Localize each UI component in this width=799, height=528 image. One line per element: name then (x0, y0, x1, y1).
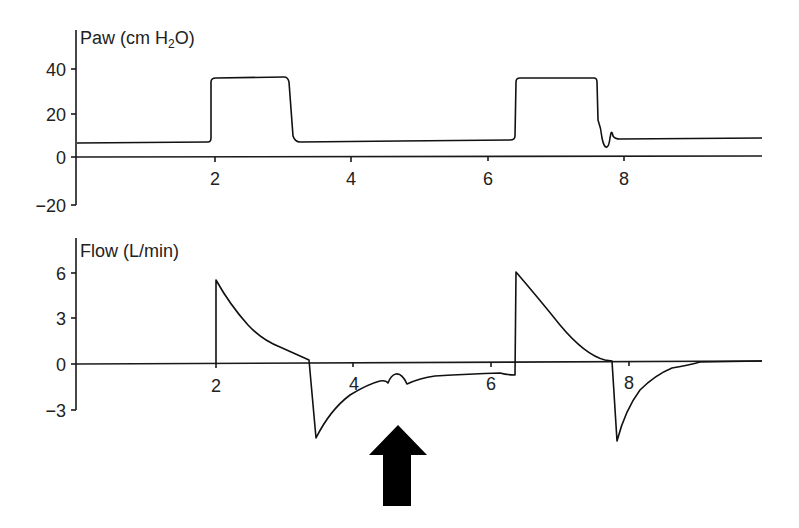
paw-xlabel-8: 8 (619, 169, 629, 189)
flow-ylabel-0: 0 (56, 355, 66, 375)
flow-ylabel-6: 6 (56, 264, 66, 284)
paw-chart: 40 20 0 −20 2 4 6 8 Paw (cm H2O) (35, 28, 762, 216)
flow-trace (216, 272, 762, 441)
paw-ylabel-0: 0 (56, 148, 66, 168)
flow-ylabel-neg3: −3 (45, 401, 66, 421)
paw-trace (77, 77, 762, 147)
flow-chart: 6 3 0 −3 2 4 6 8 Flow (L/min) (45, 238, 762, 441)
paw-ylabel-20: 20 (46, 105, 66, 125)
ventilator-waveforms: 40 20 0 −20 2 4 6 8 Paw (cm H2O) 6 3 0 −… (0, 0, 799, 528)
flow-xlabel-8: 8 (624, 373, 634, 393)
flow-xlabel-2: 2 (211, 376, 221, 396)
paw-xlabel-4: 4 (346, 169, 356, 189)
flow-x-axis (76, 361, 762, 364)
paw-xlabel-6: 6 (483, 169, 493, 189)
paw-ylabel-neg20: −20 (35, 196, 66, 216)
paw-x-axis (76, 156, 762, 157)
flow-title: Flow (L/min) (80, 241, 179, 261)
flow-ylabel-3: 3 (56, 309, 66, 329)
flow-xlabel-6: 6 (486, 374, 496, 394)
paw-title: Paw (cm H2O) (80, 28, 195, 51)
up-arrow-icon (369, 425, 427, 506)
paw-ylabel-40: 40 (46, 60, 66, 80)
paw-xlabel-2: 2 (210, 169, 220, 189)
